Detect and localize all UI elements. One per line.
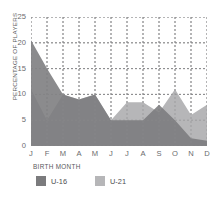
birth-month-area-chart: PERCENTAGE OF PLAYERS 2520151050 JFMAMJJ… — [0, 0, 214, 203]
legend-label-u-16: U-16 — [51, 177, 67, 186]
y-tick-20: 20 — [4, 39, 26, 47]
legend-swatch-u-16 — [36, 176, 46, 186]
legend-item-u-21: U-21 — [95, 176, 126, 186]
x-tick-6: J — [119, 150, 135, 158]
plot-area — [31, 17, 207, 146]
y-axis-tick-labels: 2520151050 — [0, 0, 26, 160]
x-tick-3: A — [71, 150, 87, 158]
x-tick-8: S — [151, 150, 167, 158]
chart-legend: U-16 U-21 — [36, 176, 126, 186]
x-axis-tick-labels: JFMAMJJASOND — [31, 150, 207, 162]
plot-svg — [31, 17, 207, 146]
series-area-u-16 — [31, 40, 207, 146]
x-axis-title: BIRTH MONTH — [33, 163, 81, 170]
legend-label-u-21: U-21 — [110, 177, 126, 186]
x-tick-7: A — [135, 150, 151, 158]
legend-spacer — [67, 181, 95, 182]
x-tick-10: N — [183, 150, 199, 158]
x-tick-9: O — [167, 150, 183, 158]
x-tick-11: D — [199, 150, 214, 158]
x-tick-5: J — [103, 150, 119, 158]
x-tick-4: M — [87, 150, 103, 158]
y-tick-15: 15 — [4, 65, 26, 73]
x-tick-1: F — [39, 150, 55, 158]
y-tick-5: 5 — [4, 116, 26, 124]
x-tick-2: M — [55, 150, 71, 158]
y-tick-0: 0 — [4, 142, 26, 150]
legend-item-u-16: U-16 — [36, 176, 67, 186]
y-tick-25: 25 — [4, 13, 26, 21]
legend-swatch-u-21 — [95, 176, 105, 186]
y-tick-10: 10 — [4, 90, 26, 98]
x-tick-0: J — [23, 150, 39, 158]
